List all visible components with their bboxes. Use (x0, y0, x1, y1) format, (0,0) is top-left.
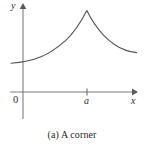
y-axis-arrowhead (20, 3, 27, 9)
y-axis-label: y (11, 1, 15, 11)
x-tick-label-a: a (84, 96, 89, 106)
figure-container: y x a 0 (a) A corner (0, 0, 144, 149)
origin-label: 0 (13, 95, 18, 106)
x-axis-label: x (131, 96, 135, 106)
function-curve (11, 11, 137, 64)
plot-canvas (0, 0, 144, 149)
figure-caption: (a) A corner (0, 129, 144, 140)
